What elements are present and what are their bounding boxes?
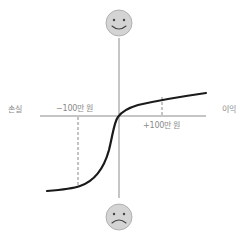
happy-face-icon (106, 10, 132, 36)
loss-label: 손실 (8, 103, 22, 114)
diagram-canvas (0, 0, 251, 241)
value-function-diagram: 손실 이익 −100만 원 +100만 원 (0, 0, 251, 241)
minus-100-label: −100만 원 (56, 102, 93, 113)
gain-label: 이익 (222, 103, 236, 114)
plus-100-label: +100만 원 (143, 119, 180, 130)
sad-face-icon (106, 204, 132, 230)
